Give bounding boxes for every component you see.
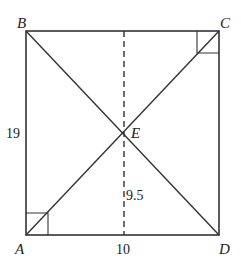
measure-side-ad: 10 <box>116 242 130 257</box>
vertex-label-d: D <box>218 241 230 257</box>
measure-height-e: 9.5 <box>126 188 144 203</box>
measure-side-ab: 19 <box>6 126 20 141</box>
vertex-label-c: C <box>220 15 231 31</box>
vertex-label-b: B <box>17 15 26 31</box>
geometry-diagram: B C A D E 19 9.5 10 <box>0 0 241 266</box>
vertex-label-a: A <box>14 241 25 257</box>
vertex-label-e: E <box>130 125 140 141</box>
